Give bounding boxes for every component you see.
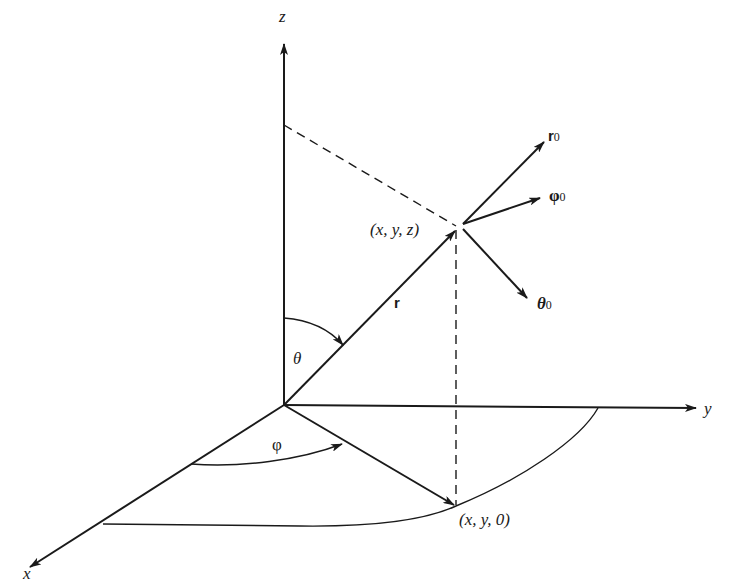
theta-angle-arc bbox=[284, 318, 343, 345]
unit-vector-r0-label: r0 bbox=[548, 127, 560, 144]
projection-vector bbox=[284, 405, 454, 505]
xy-plane-arc bbox=[300, 408, 598, 526]
unit-vector-theta0 bbox=[463, 229, 527, 298]
x-axis-label: x bbox=[23, 565, 31, 582]
phi-angle-arc bbox=[191, 444, 342, 465]
r0-subscript: 0 bbox=[554, 130, 560, 144]
unit-vector-phi0-label: φ0 bbox=[549, 187, 566, 204]
point-label: (x, y, z) bbox=[370, 221, 419, 238]
spherical-coordinates-diagram: z y x (x, y, z) (x, y, 0) r r0 φ0 θ0 θ φ bbox=[0, 0, 729, 582]
projection-point-label: (x, y, 0) bbox=[459, 511, 510, 528]
diagram-canvas bbox=[0, 0, 729, 582]
z-axis-label: z bbox=[279, 8, 286, 25]
theta-angle-label: θ bbox=[293, 350, 301, 367]
y-axis bbox=[284, 405, 696, 408]
unit-vector-r0 bbox=[463, 142, 544, 224]
theta0-symbol: θ bbox=[537, 294, 546, 313]
unit-vector-theta0-label: θ0 bbox=[537, 295, 552, 312]
phi0-subscript: 0 bbox=[560, 190, 566, 204]
x-axis bbox=[30, 405, 284, 567]
dashed-line-to-z bbox=[284, 125, 456, 226]
position-vector-label: r bbox=[394, 295, 400, 310]
position-vector-r bbox=[284, 231, 455, 405]
y-axis-label: y bbox=[704, 400, 712, 417]
theta0-subscript: 0 bbox=[546, 298, 552, 312]
phi0-symbol: φ bbox=[549, 186, 560, 205]
phi-angle-label: φ bbox=[272, 436, 282, 453]
sector-edge bbox=[103, 524, 300, 526]
